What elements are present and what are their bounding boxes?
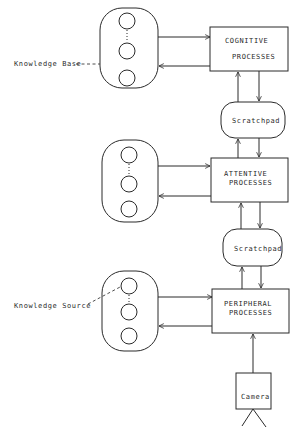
- knowledge-base-middle: [102, 140, 158, 222]
- peripheral-label-line1: PERIPHERAL: [224, 300, 272, 308]
- tripod-leg-right: [253, 409, 266, 427]
- scratchpad-1-label: Scratchpad: [232, 117, 280, 125]
- knowledge-source-label: Knowledge Source: [14, 302, 91, 310]
- attentive-label-line2: PROCESSES: [229, 179, 272, 187]
- cognitive-processes-box: COGNITIVE PROCESSES: [210, 27, 288, 71]
- scratchpad-1: Scratchpad: [221, 102, 285, 138]
- cognitive-label-line1: COGNITIVE: [225, 37, 268, 45]
- cognitive-label-line2: PROCESSES: [232, 53, 275, 61]
- scratchpad-2-label: Scratchpad: [234, 245, 282, 253]
- tripod-leg-left: [242, 409, 253, 426]
- camera-label: Camera: [241, 393, 270, 401]
- attentive-label-line1: ATTENTIVE: [224, 170, 267, 178]
- architecture-diagram: Knowledge Base COGNITIVE PROCESSES Scrat…: [0, 0, 303, 433]
- knowledge-base-bottom: [102, 271, 158, 351]
- knowledge-base-label: Knowledge Base: [14, 60, 81, 68]
- attentive-processes-box: ATTENTIVE PROCESSES: [211, 158, 288, 202]
- knowledge-base-top: [100, 8, 158, 88]
- camera: Camera: [236, 373, 271, 427]
- scratchpad-2: Scratchpad: [223, 229, 282, 266]
- peripheral-label-line2: PROCESSES: [229, 309, 272, 317]
- peripheral-processes-box: PERIPHERAL PROCESSES: [212, 289, 289, 333]
